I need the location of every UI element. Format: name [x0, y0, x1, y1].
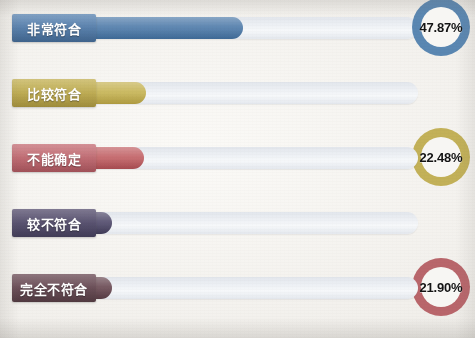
- category-label-text: 非常符合: [27, 19, 81, 38]
- category-label-tab: 较不符合: [12, 209, 96, 237]
- category-label-tab: 完全不符合: [12, 274, 96, 302]
- chart-row: 非常符合 47.87%: [0, 8, 475, 48]
- percentage-donut: 47.87%: [412, 0, 470, 56]
- chart-row: 完全不符合 3.87%: [0, 268, 475, 308]
- percentage-value: 21.90%: [420, 280, 463, 295]
- category-label-tab: 不能确定: [12, 144, 96, 172]
- bar-track: [60, 277, 418, 299]
- chart-row: 不能确定 21.90%: [0, 138, 475, 178]
- chart-row: 比较符合 22.48%: [0, 73, 475, 113]
- percentage-value: 47.87%: [420, 20, 463, 35]
- category-label-text: 不能确定: [27, 149, 81, 168]
- category-label-text: 比较符合: [27, 84, 81, 103]
- percentage-value: 22.48%: [420, 150, 463, 165]
- chart-row: 较不符合 3.88%: [0, 203, 475, 243]
- category-label-text: 完全不符合: [20, 279, 88, 298]
- category-label-tab: 比较符合: [12, 79, 96, 107]
- category-label-tab: 非常符合: [12, 14, 96, 42]
- infographic-canvas: 非常符合 47.87% 比较符合 22.48% 不能确定 21.90%: [0, 0, 475, 338]
- bar-track: [60, 212, 418, 234]
- category-label-text: 较不符合: [27, 214, 81, 233]
